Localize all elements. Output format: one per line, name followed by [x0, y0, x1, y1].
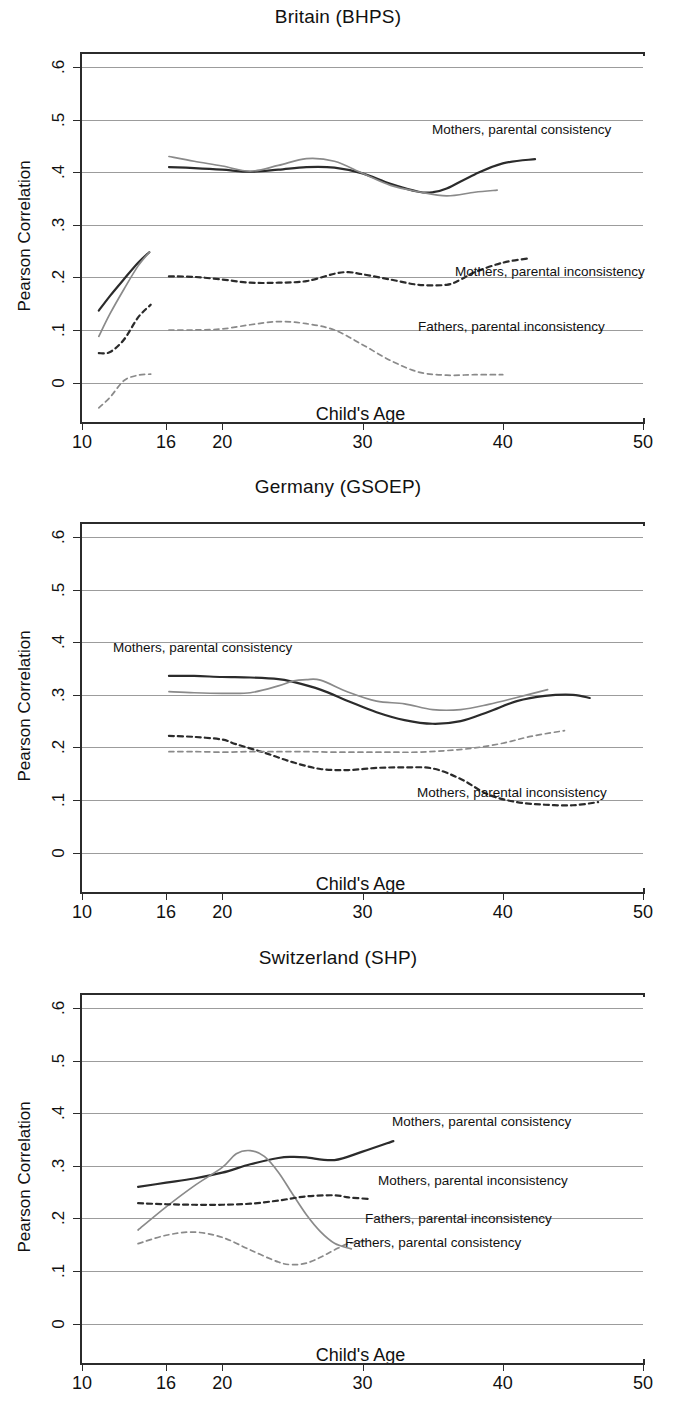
y-tick [73, 1324, 82, 1325]
y-tick-label: .5 [48, 1054, 70, 1068]
y-tick [73, 1218, 82, 1219]
y-tick-label: .5 [48, 113, 70, 127]
y-tick [73, 537, 82, 538]
x-tick-label: 40 [493, 1373, 513, 1394]
x-tick [222, 892, 223, 900]
y-tick-label: .4 [48, 635, 70, 649]
y-tick [73, 1061, 82, 1062]
x-tick [503, 1363, 504, 1371]
y-tick-label-text: .4 [49, 635, 69, 649]
y-tick [73, 642, 82, 643]
series-annotation-label: Mothers, parental inconsistency [455, 264, 645, 279]
x-tick-label: 50 [633, 1373, 653, 1394]
series-line [99, 374, 151, 408]
y-tick-label: .2 [48, 740, 70, 754]
x-tick [363, 1363, 364, 1371]
series-line [138, 1141, 393, 1187]
x-tick-label: 50 [633, 902, 653, 923]
y-tick [73, 1008, 82, 1009]
y-tick-label-text: .6 [49, 1001, 69, 1015]
series-layer [82, 524, 643, 892]
x-tick [166, 1363, 167, 1371]
y-tick [73, 172, 82, 173]
y-tick-label-text: .2 [49, 1211, 69, 1225]
series-line [99, 252, 149, 336]
y-axis-title: Pearson Correlation [14, 993, 36, 1361]
y-tick-label: 0 [48, 846, 70, 860]
y-tick-label-text: .1 [49, 1264, 69, 1278]
series-line [169, 159, 535, 193]
y-axis-title-text: Pearson Correlation [15, 630, 35, 781]
y-tick-label-text: .5 [49, 1054, 69, 1068]
x-tick [363, 892, 364, 900]
x-tick [222, 422, 223, 430]
y-tick-label-text: 0 [49, 1319, 69, 1328]
series-annotation-label: Fathers, parental inconsistency [418, 319, 605, 334]
x-tick-label: 16 [156, 1373, 176, 1394]
y-axis-title: Pearson Correlation [14, 52, 36, 420]
x-tick-label: 30 [352, 1373, 372, 1394]
series-annotation-label: Fathers, parental consistency [345, 1235, 521, 1250]
y-tick-label: .2 [48, 270, 70, 284]
y-tick-label: .1 [48, 323, 70, 337]
x-tick-label: 20 [212, 902, 232, 923]
figure-container: Britain (BHPS)Pearson CorrelationChild's… [0, 0, 676, 1421]
y-tick-label: .3 [48, 218, 70, 232]
y-tick [73, 330, 82, 331]
y-tick [73, 1166, 82, 1167]
x-tick [643, 1363, 644, 1371]
y-tick [73, 277, 82, 278]
y-tick [73, 590, 82, 591]
y-tick-label-text: 0 [49, 848, 69, 857]
series-annotation-label: Mothers, parental consistency [392, 1114, 571, 1129]
y-tick-label-text: .3 [49, 218, 69, 232]
y-tick-label: .4 [48, 165, 70, 179]
chart-panel-2: Switzerland (SHP)Pearson CorrelationChil… [0, 941, 676, 1411]
plot-frame-right-top [643, 522, 645, 526]
series-line [169, 157, 497, 196]
x-tick [363, 422, 364, 430]
x-tick-label: 10 [72, 902, 92, 923]
y-tick [73, 1271, 82, 1272]
panel-title: Britain (BHPS) [0, 6, 676, 28]
y-tick-label: .3 [48, 1159, 70, 1173]
y-tick-label-text: .3 [49, 688, 69, 702]
panel-title: Germany (GSOEP) [0, 476, 676, 498]
x-tick [643, 422, 644, 430]
series-line [169, 676, 590, 724]
series-annotation-label: Mothers, parental inconsistency [417, 785, 607, 800]
plot-frame-right-top [643, 993, 645, 997]
x-tick [82, 892, 83, 900]
y-tick-label-text: .1 [49, 793, 69, 807]
series-annotation-label: Mothers, parental consistency [432, 122, 611, 137]
y-tick-label: 0 [48, 376, 70, 390]
y-tick [73, 225, 82, 226]
x-tick [643, 892, 644, 900]
y-tick-label: .1 [48, 793, 70, 807]
y-tick-label-text: .6 [49, 530, 69, 544]
x-tick-label: 30 [352, 432, 372, 453]
series-line [99, 305, 151, 354]
x-tick-label: 30 [352, 902, 372, 923]
x-tick [503, 892, 504, 900]
y-tick-label-text: .5 [49, 583, 69, 597]
y-tick-label: .6 [48, 1001, 70, 1015]
y-tick [73, 1113, 82, 1114]
x-tick-label: 10 [72, 432, 92, 453]
plot-frame-right-top [643, 52, 645, 56]
y-tick [73, 695, 82, 696]
y-tick-label: .2 [48, 1211, 70, 1225]
y-tick [73, 383, 82, 384]
y-tick-label-text: .5 [49, 113, 69, 127]
plot-area: 0.1.2.3.4.5.6101620304050 [80, 522, 643, 894]
x-tick-label: 20 [212, 1373, 232, 1394]
y-tick-label-text: .3 [49, 1159, 69, 1173]
y-tick-label-text: .4 [49, 165, 69, 179]
series-annotation-label: Fathers, parental inconsistency [365, 1211, 552, 1226]
series-annotation-label: Mothers, parental inconsistency [378, 1173, 568, 1188]
y-tick-label-text: .2 [49, 270, 69, 284]
series-annotation-label: Mothers, parental consistency [113, 640, 292, 655]
x-tick [166, 892, 167, 900]
x-tick-label: 16 [156, 432, 176, 453]
y-tick [73, 800, 82, 801]
